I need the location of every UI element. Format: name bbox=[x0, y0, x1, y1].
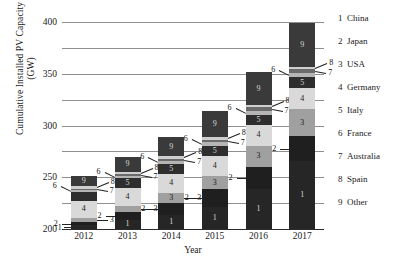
legend-item-japan: 2Japan bbox=[338, 37, 398, 60]
bar-segment-other: 9 bbox=[289, 23, 315, 66]
gridline: 400 bbox=[62, 22, 324, 23]
bar-segment-germany: 4 bbox=[246, 125, 272, 146]
bar-segment-spain bbox=[202, 137, 228, 140]
segment-number-label: 5 bbox=[202, 147, 228, 155]
bar-2013[interactable]: 1459 bbox=[115, 157, 141, 229]
bar-segment-china: 1 bbox=[158, 215, 184, 229]
bar-segment-spain bbox=[71, 186, 97, 189]
segment-number-label: 3 bbox=[289, 119, 315, 127]
legend-item-china: 1China bbox=[338, 14, 398, 37]
callout-leader-line bbox=[106, 216, 115, 217]
x-axis-title: Year bbox=[62, 245, 324, 255]
callout-leader-line bbox=[315, 63, 327, 69]
callout-label-france: 6 bbox=[228, 104, 232, 112]
callout-label-australia: 7 bbox=[197, 158, 201, 166]
bar-segment-italy: 5 bbox=[115, 178, 141, 187]
callout-label-australia: 7 bbox=[285, 107, 289, 115]
bar-segment-australia bbox=[246, 107, 272, 110]
bar-segment-australia bbox=[115, 174, 141, 176]
callout-label-france: 6 bbox=[140, 153, 144, 161]
segment-number-label: 9 bbox=[115, 160, 141, 168]
segment-number-label: 3 bbox=[246, 152, 272, 160]
bar-segment-france bbox=[202, 142, 228, 146]
segment-number-label: 1 bbox=[246, 205, 272, 213]
bar-segment-italy: 5 bbox=[246, 115, 272, 125]
callout-leader-line bbox=[271, 109, 282, 112]
bar-2015[interactable]: 13459 bbox=[202, 111, 228, 229]
segment-number-label: 5 bbox=[246, 116, 272, 124]
bar-segment-usa: 3 bbox=[246, 146, 272, 167]
legend-item-germany: 4Germany bbox=[338, 83, 398, 106]
bar-segment-italy: 5 bbox=[202, 146, 228, 156]
legend-item-number: 6 bbox=[338, 129, 347, 138]
legend-item-number: 3 bbox=[338, 60, 347, 69]
legend-item-label: Germany bbox=[347, 83, 381, 92]
bar-2014[interactable]: 13459 bbox=[158, 137, 184, 229]
callout-label-japan: 2 bbox=[141, 205, 145, 213]
callout-label-japan: 2 bbox=[185, 194, 189, 202]
legend-item-italy: 5Italy bbox=[338, 106, 398, 129]
segment-number-label: 4 bbox=[115, 193, 141, 201]
segment-number-label: 4 bbox=[289, 95, 315, 103]
callout-leader-line bbox=[61, 186, 71, 192]
legend-item-number: 8 bbox=[338, 175, 347, 184]
segment-number-label: 1 bbox=[202, 214, 228, 222]
segment-number-label: 9 bbox=[202, 120, 228, 128]
bar-segment-other: 9 bbox=[115, 157, 141, 171]
legend-item-other: 9Other bbox=[338, 198, 398, 221]
callout-leader-line bbox=[228, 141, 239, 144]
bar-2016[interactable]: 13459 bbox=[246, 72, 272, 229]
bar-2017[interactable]: 13459 bbox=[289, 23, 315, 229]
bar-segment-france bbox=[289, 73, 315, 78]
callout-leader-line bbox=[184, 152, 196, 158]
y-axis-title-line1: Cumulative Installed PV Capacity bbox=[15, 2, 25, 135]
bar-segment-spain bbox=[246, 105, 272, 108]
legend-item-usa: 3USA bbox=[338, 60, 398, 83]
bar-segment-other: 9 bbox=[158, 137, 184, 156]
callout-leader-line bbox=[149, 209, 158, 210]
legend-item-australia: 7Australia bbox=[338, 152, 398, 175]
bar-segment-germany: 4 bbox=[158, 174, 184, 194]
legend-item-number: 4 bbox=[338, 83, 347, 92]
callout-label-australia: 7 bbox=[154, 173, 158, 181]
segment-number-label: 9 bbox=[289, 41, 315, 49]
bar-segment-france bbox=[115, 176, 141, 179]
bar-segment-spain bbox=[115, 172, 141, 175]
callout-leader-line bbox=[228, 133, 240, 139]
y-axis-tick-label: 350 bbox=[43, 69, 57, 79]
bar-segment-japan bbox=[71, 222, 97, 226]
bar-segment-china: 1 bbox=[115, 220, 141, 229]
callout-label-australia: 7 bbox=[110, 187, 114, 195]
callout-label-japan: 2 bbox=[272, 145, 276, 153]
bar-segment-china bbox=[71, 225, 97, 229]
bar-segment-germany: 4 bbox=[71, 201, 97, 218]
bar-segment-australia bbox=[202, 140, 228, 143]
segment-number-label: 9 bbox=[246, 85, 272, 93]
bar-segment-other: 9 bbox=[246, 72, 272, 105]
bar-segment-japan bbox=[202, 189, 228, 207]
legend-item-number: 7 bbox=[338, 152, 347, 161]
bar-2012[interactable]: 49 bbox=[71, 176, 97, 229]
bar-segment-japan bbox=[246, 167, 272, 189]
callout-label-france: 6 bbox=[53, 182, 57, 190]
y-axis-tick-label: 300 bbox=[43, 121, 57, 131]
callout-leader-line bbox=[271, 101, 283, 107]
y-axis-tick-label: 400 bbox=[43, 17, 57, 27]
bar-segment-germany: 4 bbox=[202, 156, 228, 177]
callout-label-australia: 7 bbox=[328, 69, 332, 77]
callout-leader-line bbox=[192, 139, 202, 145]
legend-item-spain: 8Spain bbox=[338, 175, 398, 198]
segment-number-label: 4 bbox=[246, 131, 272, 139]
callout-label-france: 6 bbox=[184, 135, 188, 143]
bar-segment-germany: 4 bbox=[115, 188, 141, 207]
segment-number-label: 1 bbox=[158, 218, 184, 226]
bar-segment-japan bbox=[115, 212, 141, 219]
callout-leader-line bbox=[235, 108, 245, 114]
bar-segment-usa bbox=[71, 218, 97, 222]
bar-segment-france bbox=[158, 161, 184, 164]
bar-segment-australia bbox=[71, 189, 97, 191]
callout-label-japan: 2 bbox=[229, 174, 233, 182]
callout-leader-line bbox=[97, 189, 108, 192]
gridline: 100 bbox=[62, 177, 324, 178]
segment-number-label: 5 bbox=[115, 179, 141, 187]
